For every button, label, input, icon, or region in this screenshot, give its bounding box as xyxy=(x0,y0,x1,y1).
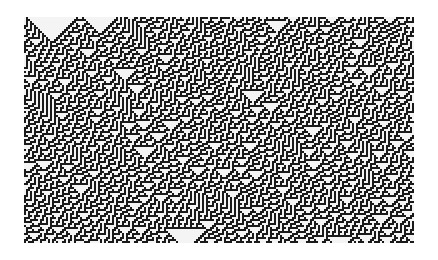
cellular-automaton-pattern xyxy=(24,17,414,243)
